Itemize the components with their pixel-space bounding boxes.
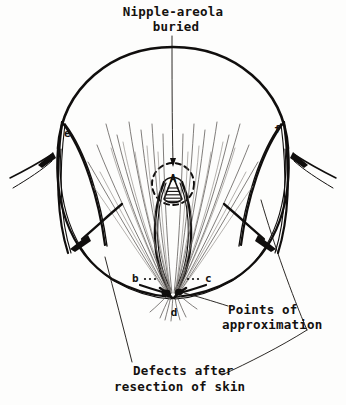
point-label-a: A xyxy=(170,172,177,185)
leader-defects-right xyxy=(222,200,307,375)
breast-outline xyxy=(58,47,288,148)
left-defect-wedge xyxy=(58,122,107,253)
right-defect-wedge xyxy=(239,122,288,253)
arrow-left-inward xyxy=(10,152,56,188)
arrow-to-right-defect xyxy=(224,204,276,252)
surgical-illustration: Nipple-areola buried Points of approxima… xyxy=(0,0,346,405)
points-label-line-2: approximation xyxy=(222,317,322,332)
points-label-line-1: Points of xyxy=(228,302,298,317)
point-label-b: b xyxy=(132,272,139,285)
diagram-canvas: Nipple-areola buried Points of approxima… xyxy=(0,0,346,405)
point-label-e: e xyxy=(64,127,71,140)
point-label-f: f xyxy=(274,123,281,136)
arrow-to-left-defect xyxy=(70,204,122,252)
point-label-d: d xyxy=(171,306,178,319)
arrow-right-inward xyxy=(290,152,336,188)
leader-nipple-areola xyxy=(170,36,176,167)
defects-label-line-2: resection of skin xyxy=(114,379,245,394)
title-line-2: buried xyxy=(153,19,199,34)
dot-connectors xyxy=(144,278,199,280)
point-label-c: c xyxy=(205,272,212,285)
leader-defects-left xyxy=(105,257,132,362)
title-line-1: Nipple-areola xyxy=(123,4,223,19)
defects-label-line-1: Defects after xyxy=(133,363,234,378)
